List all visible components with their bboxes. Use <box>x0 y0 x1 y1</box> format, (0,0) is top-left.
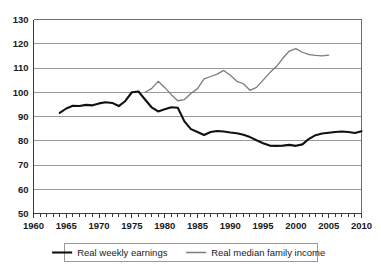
x-tick-label-1970: 1970 <box>89 220 110 231</box>
chart-legend: Real weekly earningsReal median family i… <box>52 244 325 262</box>
x-axis-tick-labels: 1960196519701975198019851990199520002005… <box>23 220 372 231</box>
y-tick-label-60: 60 <box>18 184 29 195</box>
x-minor-ticks <box>34 214 362 219</box>
y-tick-label-110: 110 <box>13 62 28 73</box>
legend-label-real-median-family-income: Real median family income <box>211 247 325 258</box>
y-tick-label-130: 130 <box>13 14 29 25</box>
x-tick-label-1960: 1960 <box>23 220 44 231</box>
x-tick-label-1980: 1980 <box>154 220 175 231</box>
x-tick-label-1965: 1965 <box>56 220 78 231</box>
y-axis-tick-labels: 5060708090100110120130 <box>13 14 29 219</box>
data-series <box>60 49 362 146</box>
x-tick-label-1975: 1975 <box>121 220 143 231</box>
y-tick-label-70: 70 <box>18 159 29 170</box>
y-tick-label-100: 100 <box>13 87 29 98</box>
x-tick-label-2010: 2010 <box>351 220 372 231</box>
x-tick-label-1985: 1985 <box>187 220 209 231</box>
x-tick-label-1990: 1990 <box>220 220 241 231</box>
series-line-real-weekly-earnings <box>60 92 362 146</box>
y-tick-label-90: 90 <box>18 111 29 122</box>
y-tick-label-50: 50 <box>18 208 29 219</box>
line-chart: 5060708090100110120130 19601965197019751… <box>0 0 381 273</box>
series-line-real-median-family-income <box>145 49 329 101</box>
y-tick-label-120: 120 <box>13 38 29 49</box>
x-tick-label-2000: 2000 <box>285 220 306 231</box>
x-tick-label-1995: 1995 <box>253 220 275 231</box>
x-tick-label-2005: 2005 <box>318 220 340 231</box>
chart-container: 5060708090100110120130 19601965197019751… <box>0 0 381 273</box>
grid-lines <box>34 44 362 190</box>
legend-label-real-weekly-earnings: Real weekly earnings <box>77 247 168 258</box>
y-tick-label-80: 80 <box>18 135 29 146</box>
